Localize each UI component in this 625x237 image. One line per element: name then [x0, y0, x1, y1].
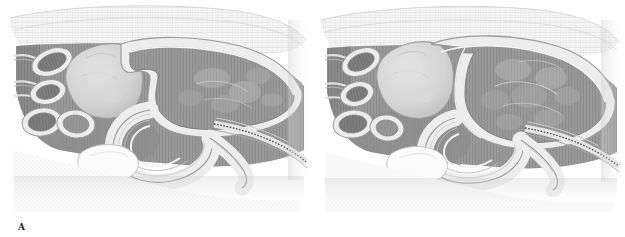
- panel-b-illustration: [313, 0, 625, 212]
- panel-a-label: A: [18, 223, 25, 232]
- panel-b: B: [313, 0, 625, 237]
- figure-root: A: [0, 0, 625, 237]
- panel-a-illustration: [0, 0, 312, 212]
- panel-a: A: [0, 0, 312, 237]
